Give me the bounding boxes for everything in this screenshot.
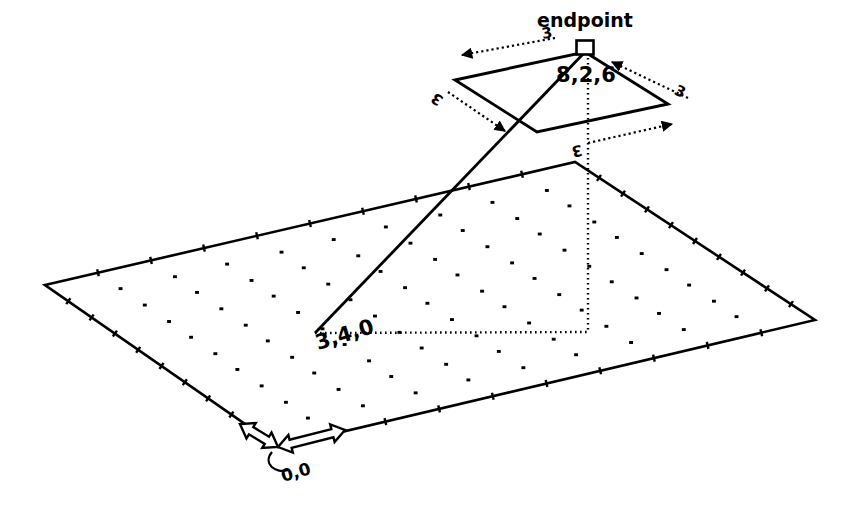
- grid-point: [235, 368, 239, 371]
- grid-point: [337, 388, 341, 391]
- grid-point: [456, 274, 460, 277]
- grid-point: [682, 328, 686, 331]
- dim-arrow-left: [448, 92, 505, 131]
- grid-point: [143, 304, 147, 307]
- grid-point: [533, 277, 537, 280]
- grid-point: [545, 189, 549, 192]
- grid-point: [615, 236, 619, 239]
- grid-point: [568, 204, 572, 207]
- grid-point: [480, 290, 484, 293]
- three-d-coordinate-diagram: endpoint 8,2,6 3,4,0 0,0 3333: [0, 0, 861, 509]
- diagram-canvas: endpoint 8,2,6 3,4,0 0,0 3333: [0, 0, 861, 509]
- endpoint-label: endpoint: [537, 9, 633, 31]
- grid-point: [389, 375, 393, 378]
- grid-point: [195, 291, 199, 294]
- grid-point: [326, 283, 330, 286]
- grid-point: [580, 309, 584, 312]
- grid-point: [409, 242, 413, 245]
- grid-point: [384, 225, 388, 228]
- grid-point: [167, 320, 171, 323]
- grid-point: [219, 307, 223, 310]
- grid-point: [213, 352, 217, 355]
- grid-point: [574, 353, 578, 356]
- grid-point: [250, 279, 254, 282]
- grid-point: [665, 268, 669, 271]
- grid-point: [491, 201, 495, 204]
- grid-point: [266, 339, 270, 342]
- grid-point: [610, 280, 614, 283]
- grid-point: [527, 322, 531, 325]
- grid-point: [189, 336, 193, 339]
- grid-point: [280, 251, 284, 254]
- grid-point: [444, 363, 448, 366]
- grid-point: [592, 221, 596, 224]
- grid-point: [225, 263, 229, 266]
- grid-point: [503, 305, 507, 308]
- grid-point: [687, 284, 691, 287]
- grid-point: [296, 311, 300, 314]
- grid-point: [425, 302, 429, 305]
- grid-point: [563, 249, 567, 252]
- grid-point: [438, 214, 442, 217]
- ground-grid-points: [119, 189, 739, 419]
- dimension-label: 3: [570, 141, 584, 161]
- dim-arrow-bottom: [588, 124, 672, 143]
- ground-coordinate-label: 3,4,0: [312, 314, 376, 354]
- grid-point: [475, 334, 479, 337]
- origin-axis-arrow-right[interactable]: [278, 424, 345, 452]
- grid-point: [521, 366, 525, 369]
- grid-point: [356, 254, 360, 257]
- grid-point: [461, 229, 465, 232]
- grid-point: [629, 341, 633, 344]
- endpoint-to-ground-ray: [315, 52, 585, 333]
- grid-point: [433, 258, 437, 261]
- grid-point: [332, 238, 336, 241]
- grid-point: [604, 325, 608, 328]
- grid-point: [312, 372, 316, 375]
- grid-point: [367, 359, 371, 362]
- grid-point: [640, 252, 644, 255]
- grid-point: [538, 233, 542, 236]
- grid-point: [587, 265, 591, 268]
- grid-point: [466, 378, 470, 381]
- grid-point: [635, 297, 639, 300]
- endpoint-square-marker[interactable]: [577, 41, 594, 55]
- grid-point: [272, 295, 276, 298]
- origin-axis-arrows[interactable]: [240, 423, 345, 453]
- grid-point: [450, 318, 454, 321]
- grid-point: [361, 404, 365, 407]
- grid-point: [244, 324, 248, 327]
- grid-point: [657, 312, 661, 315]
- grid-point: [260, 384, 264, 387]
- grid-point: [557, 293, 561, 296]
- dimension-arrow-group: [448, 38, 688, 143]
- grid-point: [284, 401, 288, 404]
- grid-point: [306, 417, 310, 420]
- grid-point: [403, 286, 407, 289]
- endpoint-coordinate-label: 8,2,6: [556, 63, 616, 87]
- grid-point: [414, 391, 418, 394]
- grid-point: [552, 338, 556, 341]
- dimension-label: 3: [428, 89, 447, 110]
- grid-point: [735, 315, 739, 318]
- ground-grid-plane: [45, 162, 815, 447]
- ground-plane-edge-ticks: [66, 171, 793, 438]
- grid-point: [173, 275, 177, 278]
- origin-axis-arrow-left[interactable]: [240, 423, 278, 448]
- grid-point: [290, 356, 294, 359]
- grid-point: [497, 350, 501, 353]
- grid-point: [420, 347, 424, 350]
- grid-point: [373, 315, 377, 318]
- grid-point: [485, 245, 489, 248]
- grid-point: [515, 217, 519, 220]
- grid-point: [712, 300, 716, 303]
- grid-point: [302, 266, 306, 269]
- dimension-label: 3: [672, 81, 689, 102]
- dim-arrow-top-left: [462, 38, 555, 55]
- grid-point: [510, 261, 514, 264]
- grid-point: [379, 270, 383, 273]
- grid-point: [119, 287, 123, 290]
- origin-coordinate-label: 0,0: [279, 458, 314, 486]
